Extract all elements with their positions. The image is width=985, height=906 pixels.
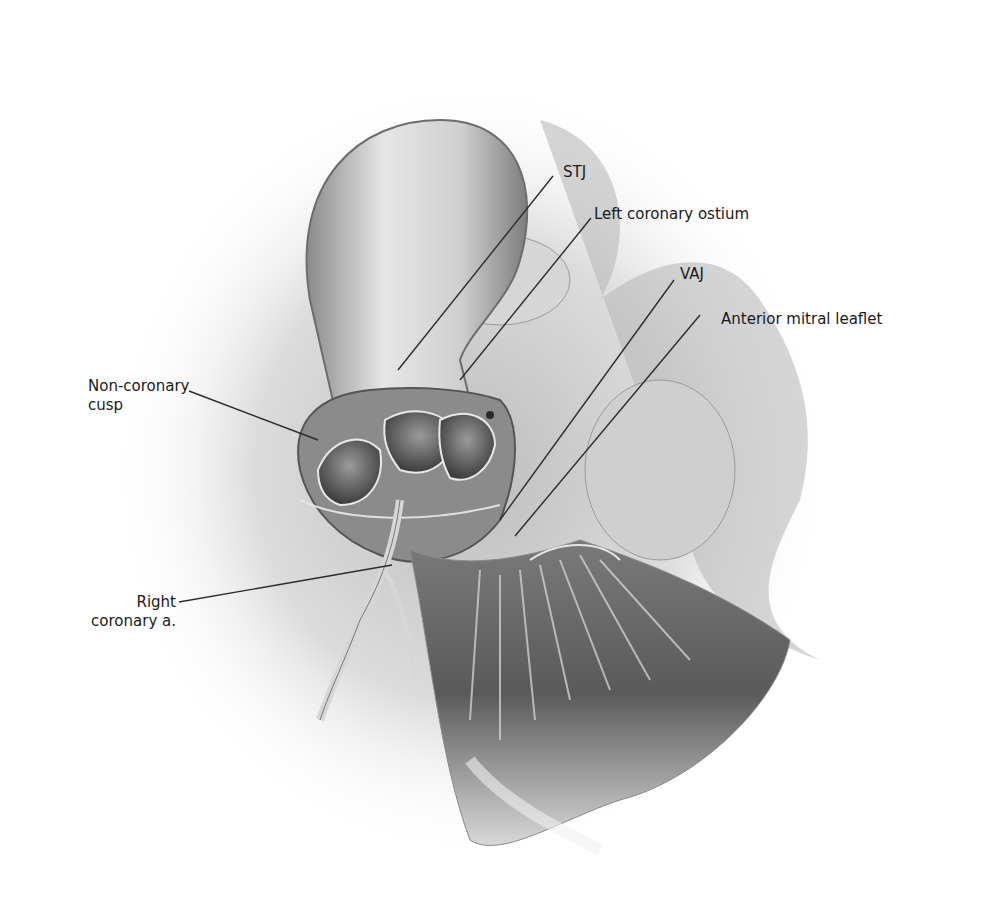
label-right-coronary-a: Right coronary a. xyxy=(80,593,176,631)
left-atrial-appendage xyxy=(585,380,735,560)
label-non-coronary-cusp: Non-coronary cusp xyxy=(88,377,184,415)
label-stj: STJ xyxy=(563,163,586,182)
label-vaj: VAJ xyxy=(680,265,704,284)
label-anterior-mitral-leaflet: Anterior mitral leaflet xyxy=(721,310,882,329)
label-right-coronary-a-line1: Right xyxy=(80,593,176,612)
label-right-coronary-a-line2: coronary a. xyxy=(80,612,176,631)
anatomy-figure: STJ Left coronary ostium VAJ Anterior mi… xyxy=(0,0,985,906)
label-non-coronary-cusp-line1: Non-coronary xyxy=(88,377,184,396)
label-left-coronary-ostium: Left coronary ostium xyxy=(594,205,749,224)
left-coronary-ostium-shape xyxy=(486,411,494,419)
label-non-coronary-cusp-line2: cusp xyxy=(88,396,184,415)
aortic-root-illustration xyxy=(0,0,985,906)
